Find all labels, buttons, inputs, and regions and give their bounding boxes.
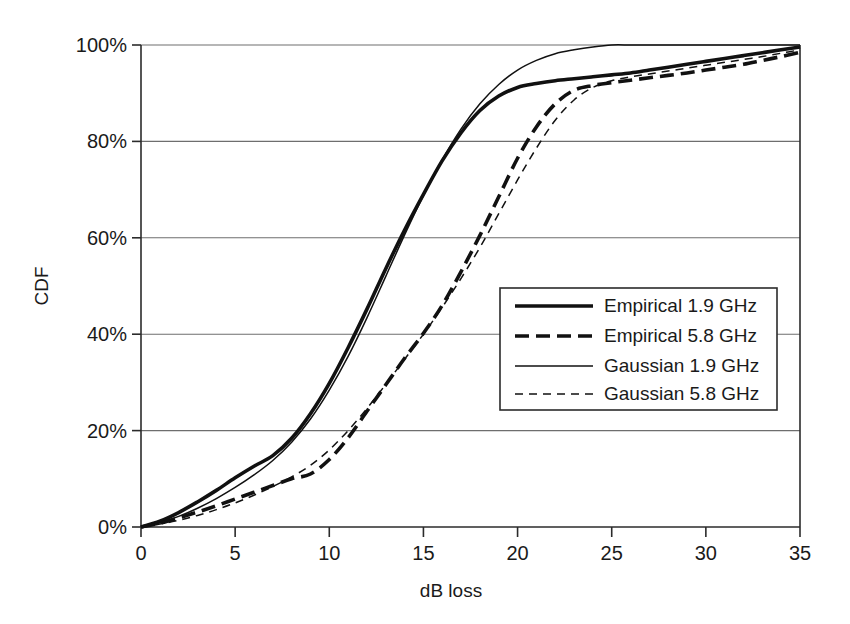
legend-label-empirical-1-9-ghz: Empirical 1.9 GHz xyxy=(604,295,757,316)
y-axis-title: CDF xyxy=(31,266,52,305)
chart-canvas: 0%20%40%60%80%100% 05101520253035 dB los… xyxy=(0,0,850,624)
x-tick-label-0: 0 xyxy=(135,542,146,564)
x-tick-label-20: 20 xyxy=(506,542,528,564)
x-tick-label-5: 5 xyxy=(230,542,241,564)
x-tick-label-10: 10 xyxy=(318,542,340,564)
cdf-chart-figure: 0%20%40%60%80%100% 05101520253035 dB los… xyxy=(0,0,850,624)
y-tick-label-80: 80% xyxy=(87,130,127,152)
x-tick-label-25: 25 xyxy=(601,542,623,564)
y-tick-label-60: 60% xyxy=(87,227,127,249)
legend-label-gaussian-5-8-ghz: Gaussian 5.8 GHz xyxy=(604,383,759,404)
y-tick-label-100: 100% xyxy=(76,34,127,56)
legend-label-empirical-5-8-ghz: Empirical 5.8 GHz xyxy=(604,325,757,346)
legend-label-gaussian-1-9-ghz: Gaussian 1.9 GHz xyxy=(604,355,759,376)
y-tick-label-0: 0% xyxy=(98,516,127,538)
x-axis-title: dB loss xyxy=(420,580,482,601)
x-tick-label-15: 15 xyxy=(412,542,434,564)
y-tick-label-40: 40% xyxy=(87,323,127,345)
chart-legend: Empirical 1.9 GHzEmpirical 5.8 GHzGaussi… xyxy=(500,288,777,410)
x-tick-label-35: 35 xyxy=(789,542,811,564)
y-tick-label-20: 20% xyxy=(87,420,127,442)
x-tick-label-30: 30 xyxy=(695,542,717,564)
